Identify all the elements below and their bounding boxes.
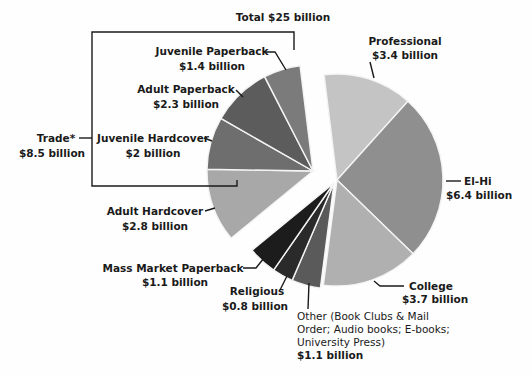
professional-value: $3.4 billion [372, 49, 438, 61]
religious-value: $0.8 billion [222, 300, 288, 312]
adult-hardcover-value: $2.8 billion [122, 220, 188, 232]
college-label: College [409, 280, 453, 292]
other-label-line-3: University Press) [297, 336, 385, 348]
other-label-line-2: Order; Audio books; E-books; [297, 323, 450, 335]
trade-group-label: Trade* [37, 132, 76, 144]
professional-label: Professional [368, 35, 441, 47]
juvenile-hardcover-value: $2 billion [126, 147, 181, 159]
adult-hardcover-label: Adult Hardcover [107, 205, 204, 217]
chart-title: Total $25 billion [236, 11, 331, 23]
other-leader [308, 283, 309, 309]
juvenile-hardcover-label: Juvenile Hardcover [96, 132, 210, 144]
other-value: $1.1 billion [297, 349, 363, 361]
college-value: $3.7 billion [402, 293, 468, 305]
other-label-line-1: Other (Book Clubs & Mail [297, 310, 429, 322]
el-hi-label: El-Hi [464, 175, 492, 187]
adult-paperback-value: $2.3 billion [153, 98, 219, 110]
pie-chart: Total $25 billion Trade* $8.5 billion Ju… [0, 0, 532, 377]
mass-market-value: $1.1 billion [142, 276, 208, 288]
college-leader [374, 281, 404, 286]
professional-leader [370, 62, 374, 78]
juvenile-paperback-value: $1.4 billion [179, 60, 245, 72]
juvenile-paperback-label: Juvenile Paperback [155, 45, 270, 57]
adult-paperback-label: Adult Paperback [137, 83, 236, 95]
trade-group-value: $8.5 billion [19, 147, 85, 159]
slices-layer [207, 66, 443, 288]
religious-label: Religious [230, 285, 284, 297]
chart-canvas: Total $25 billion Trade* $8.5 billion Ju… [0, 0, 532, 377]
mass-market-label: Mass Market Paperback [102, 262, 244, 274]
el-hi-value: $6.4 billion [446, 189, 512, 201]
